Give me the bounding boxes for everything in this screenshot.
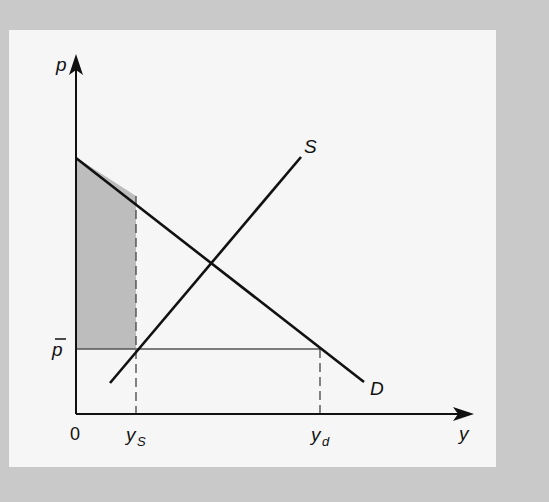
y-axis-label: y xyxy=(457,423,470,444)
ys-label: y xyxy=(124,424,137,445)
supply-demand-chart: p S D p 0 y y S y d xyxy=(0,0,549,502)
ys-subscript: S xyxy=(137,434,146,449)
origin-label: 0 xyxy=(70,424,80,444)
yd-label: y xyxy=(309,424,322,445)
p-axis-label: p xyxy=(55,54,67,75)
yd-subscript: d xyxy=(322,434,330,449)
shaded-surplus-area xyxy=(77,158,136,349)
demand-label: D xyxy=(370,378,384,399)
supply-label: S xyxy=(304,136,317,157)
pbar-label: p xyxy=(51,339,63,360)
